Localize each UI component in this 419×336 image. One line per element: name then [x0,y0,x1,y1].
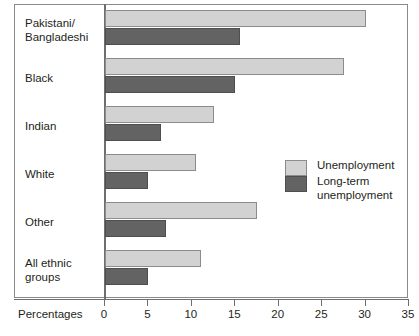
axis-tick [321,299,322,306]
value-axis-ticks: Percentages 05101520253035 [0,299,419,336]
axis-tick-label: 30 [358,308,371,320]
axis-tick-label: 25 [315,308,328,320]
axis-baseline [14,299,408,300]
axis-tick-label: 10 [184,308,197,320]
legend-label: Long-term unemployment [317,175,410,202]
bar [105,268,148,285]
plot-frame [14,4,408,298]
axis-tick [147,299,148,306]
axis-tick [104,299,105,306]
bar [105,202,257,219]
legend-label: Unemployment [317,159,410,173]
category-label: White [25,167,54,181]
bar [105,124,161,141]
axis-tick-label: 15 [228,308,241,320]
axis-tick [278,299,279,306]
bar [105,28,240,45]
bar [105,106,214,123]
bar [105,250,201,267]
category-label: Black [25,71,53,85]
bar [105,76,235,93]
bar [105,154,196,171]
axis-tick [408,299,409,306]
axis-tick-label: 20 [271,308,284,320]
axis-tick-label: 0 [101,308,107,320]
bar [105,220,166,237]
axis-tick [365,299,366,306]
axis-title: Percentages [18,308,83,320]
dark-grey-swatch [285,176,307,192]
chart-legend: UnemploymentLong-term unemployment [285,159,410,202]
bar [105,10,366,27]
bar [105,172,148,189]
category-label: Other [25,215,54,229]
axis-tick-label: 5 [144,308,150,320]
bar-chart-figure: Pakistani/ BangladeshiBlackIndianWhiteOt… [0,0,419,336]
axis-tick [191,299,192,306]
category-label: All ethnic groups [25,256,72,284]
legend-item: Unemployment [285,159,410,175]
axis-tick-label: 35 [402,308,415,320]
axis-tick [234,299,235,306]
light-grey-swatch [285,160,307,176]
bar [105,58,344,75]
legend-item: Long-term unemployment [285,175,410,202]
category-label: Indian [25,119,56,133]
category-label: Pakistani/ Bangladeshi [25,16,88,44]
